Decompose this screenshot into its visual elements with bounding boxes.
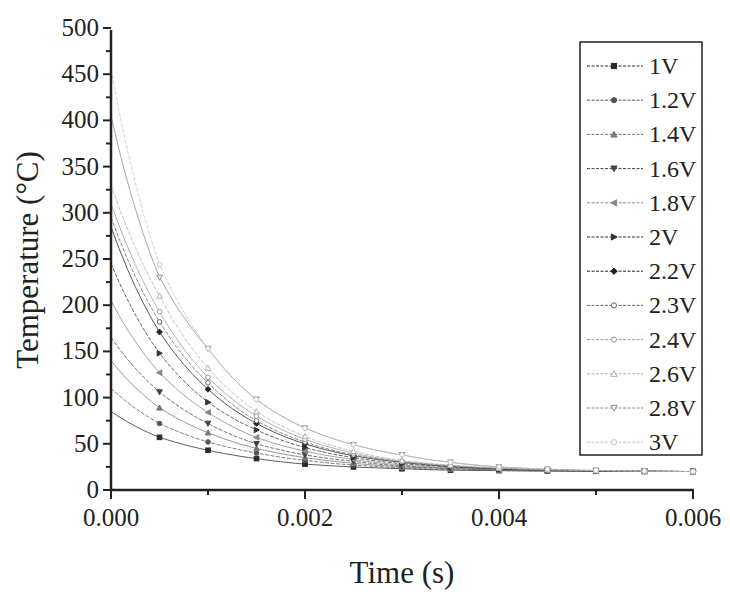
data-point-marker bbox=[448, 460, 453, 465]
y-tick-label: 450 bbox=[62, 60, 100, 87]
data-point-marker bbox=[611, 98, 616, 103]
data-point-marker bbox=[594, 468, 599, 473]
legend-label: 1.4V bbox=[649, 121, 697, 147]
data-point-marker bbox=[611, 337, 616, 342]
y-ticks-group: 050100150200250300350400450500 bbox=[62, 14, 112, 503]
data-point-marker bbox=[157, 309, 162, 314]
y-tick-label: 350 bbox=[62, 153, 100, 180]
x-ticks-group: 0.0000.0020.0040.006 bbox=[83, 490, 721, 531]
legend-label: 1V bbox=[649, 53, 679, 79]
data-point-marker bbox=[254, 451, 259, 456]
legend-label: 2.4V bbox=[649, 327, 697, 353]
temperature-vs-time-chart: 050100150200250300350400450500 0.0000.00… bbox=[0, 0, 730, 606]
data-point-marker bbox=[254, 456, 259, 461]
x-tick-label: 0.000 bbox=[83, 504, 139, 531]
data-point-marker bbox=[254, 418, 259, 423]
data-point-marker bbox=[400, 453, 405, 458]
legend-label: 1.6V bbox=[649, 156, 697, 182]
data-point-marker bbox=[254, 427, 259, 433]
data-point-marker bbox=[642, 469, 647, 474]
data-point-marker bbox=[157, 262, 162, 267]
data-point-marker bbox=[611, 303, 616, 308]
x-tick-label: 0.002 bbox=[277, 504, 333, 531]
y-tick-label: 200 bbox=[62, 291, 100, 318]
y-tick-label: 100 bbox=[62, 384, 100, 411]
data-point-marker bbox=[206, 440, 211, 445]
legend-label: 2.2V bbox=[649, 258, 697, 284]
legend-label: 1.2V bbox=[649, 87, 697, 113]
data-point-marker bbox=[206, 346, 211, 351]
data-point-marker bbox=[205, 410, 210, 416]
data-point-marker bbox=[157, 320, 162, 325]
x-tick-label: 0.004 bbox=[471, 504, 528, 531]
data-point-marker bbox=[206, 448, 211, 453]
legend-label: 3V bbox=[649, 429, 679, 455]
data-point-marker bbox=[303, 426, 308, 431]
data-point-marker bbox=[611, 63, 616, 68]
y-tick-label: 400 bbox=[62, 106, 100, 133]
data-point-marker bbox=[157, 435, 162, 440]
data-point-marker bbox=[157, 329, 163, 335]
data-point-marker bbox=[611, 440, 616, 445]
y-tick-label: 0 bbox=[87, 476, 100, 503]
data-point-marker bbox=[351, 448, 357, 453]
data-point-marker bbox=[351, 442, 356, 447]
legend-label: 2.6V bbox=[649, 361, 697, 387]
data-point-marker bbox=[157, 390, 163, 395]
data-point-marker bbox=[691, 469, 696, 474]
x-axis-title: Time (s) bbox=[350, 555, 455, 590]
data-point-marker bbox=[254, 409, 260, 414]
data-point-marker bbox=[205, 421, 211, 426]
legend-label: 2.8V bbox=[649, 395, 697, 421]
data-point-marker bbox=[157, 275, 163, 280]
legend-label: 1.8V bbox=[649, 190, 697, 216]
data-point-marker bbox=[254, 442, 260, 447]
y-axis-title: Temperature (°C) bbox=[10, 151, 45, 369]
data-point-marker bbox=[254, 414, 259, 419]
data-point-marker bbox=[206, 375, 211, 380]
data-point-marker bbox=[206, 381, 211, 386]
data-point-marker bbox=[157, 405, 163, 410]
y-tick-label: 250 bbox=[62, 245, 100, 272]
y-tick-label: 150 bbox=[62, 337, 100, 364]
data-point-marker bbox=[254, 435, 259, 441]
legend-label: 2V bbox=[649, 224, 679, 250]
legend: 1V1.2V1.4V1.6V1.8V2V2.2V2.3V2.4V2.6V2.8V… bbox=[580, 42, 702, 455]
data-point-marker bbox=[157, 421, 162, 426]
data-point-marker bbox=[497, 465, 502, 470]
data-point-marker bbox=[157, 293, 163, 298]
data-point-marker bbox=[302, 434, 308, 439]
data-point-marker bbox=[254, 397, 259, 402]
data-point-marker bbox=[545, 467, 550, 472]
x-tick-label: 0.006 bbox=[665, 504, 721, 531]
legend-label: 2.3V bbox=[649, 292, 697, 318]
y-tick-label: 50 bbox=[74, 430, 99, 457]
data-point-marker bbox=[205, 430, 211, 435]
y-tick-label: 300 bbox=[62, 199, 100, 226]
y-tick-label: 500 bbox=[62, 14, 100, 41]
